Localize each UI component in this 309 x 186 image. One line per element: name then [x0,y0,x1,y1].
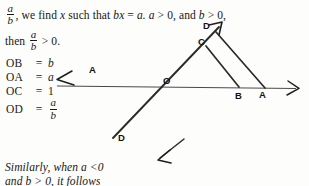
annotation-pointer-arrowhead-icon [158,150,171,163]
point-label-C: C [198,36,205,47]
point-label-B: B [235,90,242,101]
segment-D-to-A [216,32,265,88]
point-label-A: A [259,89,266,100]
ray-arrowhead-upper-icon [209,22,222,35]
point-label-A-axis-left: A [89,64,96,75]
geometry-diagram: A O C D B A D [0,0,309,186]
textbook-page-scan: a b , we find x such that bx = a. a > 0,… [0,0,309,186]
closing-text-line-1: Similarly, when a <0 [5,161,104,173]
point-label-D-lower: D [118,132,125,143]
axis-arrowhead-left-icon [57,71,74,85]
closing-text-line-2: and b > 0, it follows [5,175,100,186]
point-label-O: O [163,75,170,86]
point-label-D-upper: D [203,20,210,31]
